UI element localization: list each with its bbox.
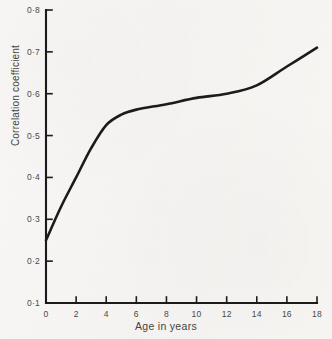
y-tick-label: 0·2 [12, 256, 40, 266]
x-axis-title: Age in years [0, 320, 332, 332]
y-tick-label: 0·1 [12, 298, 40, 308]
y-tick-label: 0·4 [12, 172, 40, 182]
y-axis-title: Correlation coefficient [10, 36, 21, 156]
y-tick-label: 0·8 [12, 5, 40, 15]
x-tick-label: 10 [192, 309, 202, 319]
x-tick-label: 6 [134, 309, 139, 319]
x-tick-label: 12 [222, 309, 232, 319]
x-tick-label: 8 [164, 309, 169, 319]
x-tick-label: 14 [252, 309, 262, 319]
chart-figure: 0·10·20·30·40·50·60·70·8 024681012141618… [0, 0, 332, 339]
y-tick-label: 0·3 [12, 214, 40, 224]
plot-area [0, 0, 332, 339]
x-tick-label: 0 [44, 309, 49, 319]
data-series-layer [46, 48, 317, 241]
x-tick-label: 4 [104, 309, 109, 319]
x-tick-label: 18 [312, 309, 322, 319]
data-line-series-0 [46, 48, 317, 241]
x-tick-label: 2 [74, 309, 79, 319]
x-tick-label: 16 [282, 309, 292, 319]
